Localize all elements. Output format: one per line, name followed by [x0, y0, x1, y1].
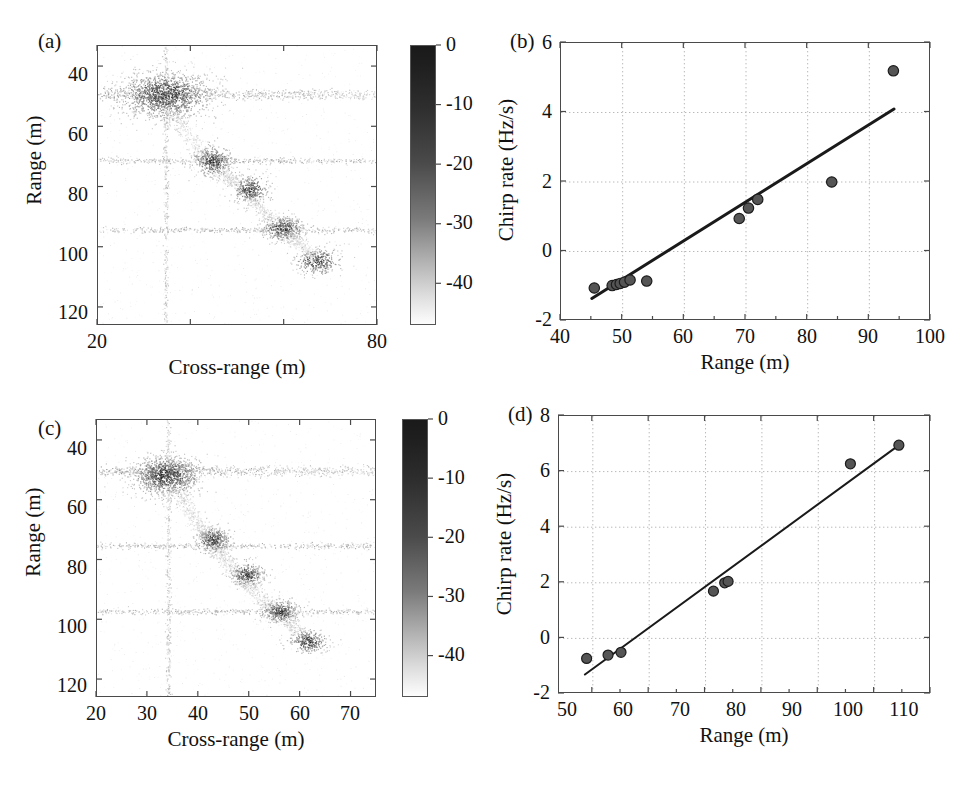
- panel-c-cbtick-4: -40: [438, 643, 465, 666]
- panel-d-xtick-6: 110: [876, 698, 932, 721]
- panel-d-axes: [558, 415, 930, 693]
- panel-a-cbtick-0: 0: [446, 33, 456, 56]
- panel-c-xtick-1: 30: [122, 702, 172, 725]
- panel-a-cbtick-3: -30: [446, 211, 473, 234]
- panel-c-xtick-3: 50: [224, 702, 274, 725]
- panel-b-xtick-6: 100: [905, 325, 955, 348]
- panel-c-ylabel: Range (m): [21, 442, 46, 622]
- panel-a-plot-area: [98, 46, 377, 325]
- panel-a-xlabel: Cross-range (m): [97, 355, 377, 380]
- panel-d-xtick-0: 50: [542, 698, 592, 721]
- panel-c-ytick-4: 120: [25, 674, 87, 697]
- panel-a-cbtick-4: -40: [446, 271, 473, 294]
- panel-c-xtick-2: 40: [173, 702, 223, 725]
- panel-c-cbtick-1: -10: [438, 466, 465, 489]
- panel-c-cbtick-2: -20: [438, 525, 465, 548]
- panel-c-axes: [96, 419, 376, 697]
- panel-d-xlabel: Range (m): [558, 723, 930, 748]
- panel-b: (b) 6 4 2 0 -2 40 50 60 70 80 90 100 Ran…: [484, 0, 968, 394]
- panel-d-xtick-3: 80: [711, 698, 761, 721]
- panel-b-xlabel: Range (m): [560, 350, 930, 375]
- panel-a-colorbar: [410, 45, 436, 325]
- panel-c: (c) 40 60 80 100 120 20 30 40 50 60 70 C…: [0, 394, 484, 788]
- panel-b-xtick-3: 70: [720, 325, 770, 348]
- panel-a-xtick-3: 80: [352, 330, 402, 353]
- panel-c-cbtick-0: 0: [438, 407, 448, 430]
- panel-a-ytick-4: 120: [26, 301, 88, 324]
- panel-d: (d) 8 6 4 2 0 -2 50 60 70 80 90 100 110 …: [484, 394, 968, 788]
- panel-c-cbtick-3: -30: [438, 584, 465, 607]
- panel-b-xtick-1: 50: [597, 325, 647, 348]
- panel-a-axes: [97, 45, 377, 325]
- panel-d-ylabel: Chirp rate (Hz/s): [492, 424, 517, 664]
- panel-c-xtick-0: 20: [71, 702, 121, 725]
- panel-b-xtick-5: 90: [843, 325, 893, 348]
- panel-b-xtick-4: 80: [782, 325, 832, 348]
- panel-d-xtick-4: 90: [767, 698, 817, 721]
- panel-b-plot-area: [561, 43, 930, 320]
- panel-d-plot-area: [559, 416, 930, 693]
- panel-c-plot-area: [97, 420, 376, 697]
- panel-a-cbtick-2: -20: [446, 152, 473, 175]
- panel-c-xtick-4: 60: [275, 702, 325, 725]
- figure-canvas: (a) 40 60 80 100 120 20 80 Cross-range (…: [0, 0, 968, 788]
- panel-c-xtick-5: 70: [325, 702, 375, 725]
- panel-b-xtick-2: 60: [658, 325, 708, 348]
- panel-d-xtick-1: 60: [598, 698, 648, 721]
- panel-c-colorbar: [402, 419, 428, 697]
- panel-a: (a) 40 60 80 100 120 20 80 Cross-range (…: [0, 0, 484, 394]
- panel-a-ylabel: Range (m): [22, 70, 47, 250]
- panel-b-ylabel: Chirp rate (Hz/s): [494, 50, 519, 290]
- panel-a-xtick-0: 20: [72, 330, 122, 353]
- panel-c-xlabel: Cross-range (m): [96, 727, 376, 752]
- panel-d-xtick-2: 70: [655, 698, 705, 721]
- panel-b-axes: [560, 42, 930, 320]
- panel-b-xtick-0: 40: [535, 325, 585, 348]
- panel-d-xtick-5: 100: [820, 698, 876, 721]
- panel-a-cbtick-1: -10: [446, 92, 473, 115]
- panel-a-label: (a): [38, 29, 61, 54]
